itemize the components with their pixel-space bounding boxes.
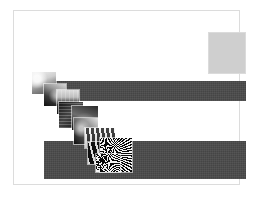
page-frame xyxy=(13,10,240,185)
bottom-bar-ghost-text xyxy=(44,141,246,179)
bottom-dark-bar xyxy=(44,141,246,179)
gray-swatch xyxy=(208,32,246,74)
thumbnail-10 xyxy=(95,153,121,173)
thumbnail-10-image xyxy=(96,154,120,172)
poster-canvas xyxy=(0,0,256,199)
